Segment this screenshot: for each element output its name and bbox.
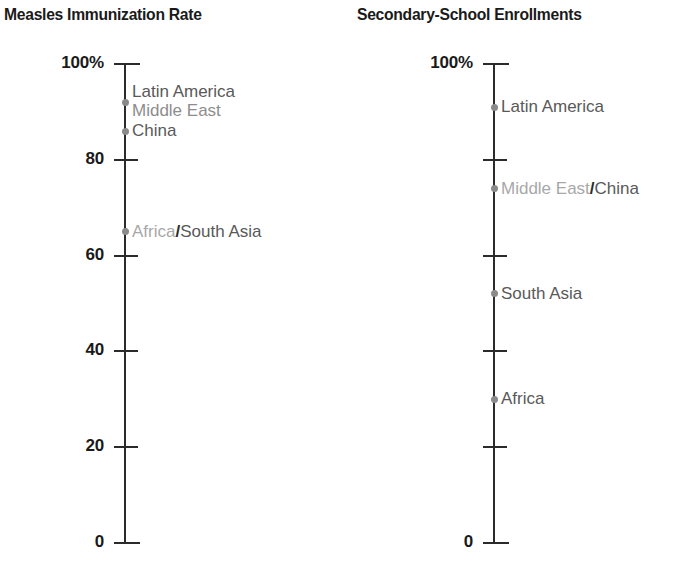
plot-area-enrollments: 100%0Latin AmericaMiddle East/ChinaSouth…: [341, 0, 683, 568]
y-axis-tick: [483, 446, 507, 448]
data-point-marker: [491, 396, 498, 403]
y-axis-tick: [483, 255, 507, 257]
y-axis-tick-label: 80: [0, 149, 104, 169]
data-point-label: Latin America: [132, 82, 235, 102]
y-axis-tick: [114, 350, 138, 352]
y-axis-tick: [114, 63, 140, 65]
y-axis-tick: [114, 255, 138, 257]
data-point-label: China: [132, 121, 176, 141]
data-point-marker: [122, 228, 129, 235]
y-axis-tick-label: 40: [0, 340, 104, 360]
y-axis-tick: [114, 542, 140, 544]
data-point-label: Latin America: [501, 97, 604, 117]
y-axis-tick-label: 0: [0, 532, 104, 552]
y-axis-tick-label: 100%: [0, 53, 104, 73]
y-axis-line: [493, 64, 495, 543]
y-axis-tick: [483, 350, 507, 352]
data-point-label: Middle East: [132, 101, 221, 121]
y-axis-tick: [114, 159, 138, 161]
y-axis-tick: [114, 446, 138, 448]
data-point-label: Middle East/China: [501, 179, 639, 199]
data-point-label: Africa/South Asia: [132, 222, 261, 242]
y-axis-tick: [483, 159, 507, 161]
chart-panel-measles: Measles Immunization Rate 100%806040200L…: [0, 0, 341, 568]
data-point-marker: [491, 185, 498, 192]
data-point-marker: [491, 104, 498, 111]
y-axis-tick: [483, 63, 509, 65]
y-axis-tick: [483, 542, 509, 544]
y-axis-line: [124, 64, 126, 543]
y-axis-tick-label: 100%: [341, 53, 473, 73]
plot-area-measles: 100%806040200Latin AmericaMiddle EastChi…: [0, 0, 341, 568]
data-point-marker: [122, 99, 129, 106]
data-point-label: Africa: [501, 389, 544, 409]
y-axis-tick-label: 20: [0, 436, 104, 456]
y-axis-tick-label: 60: [0, 245, 104, 265]
chart-panel-enrollments: Secondary-School Enrollments 100%0Latin …: [341, 0, 683, 568]
data-point-marker: [122, 128, 129, 135]
data-point-marker: [491, 290, 498, 297]
data-point-label: South Asia: [501, 284, 582, 304]
y-axis-tick-label: 0: [341, 532, 473, 552]
